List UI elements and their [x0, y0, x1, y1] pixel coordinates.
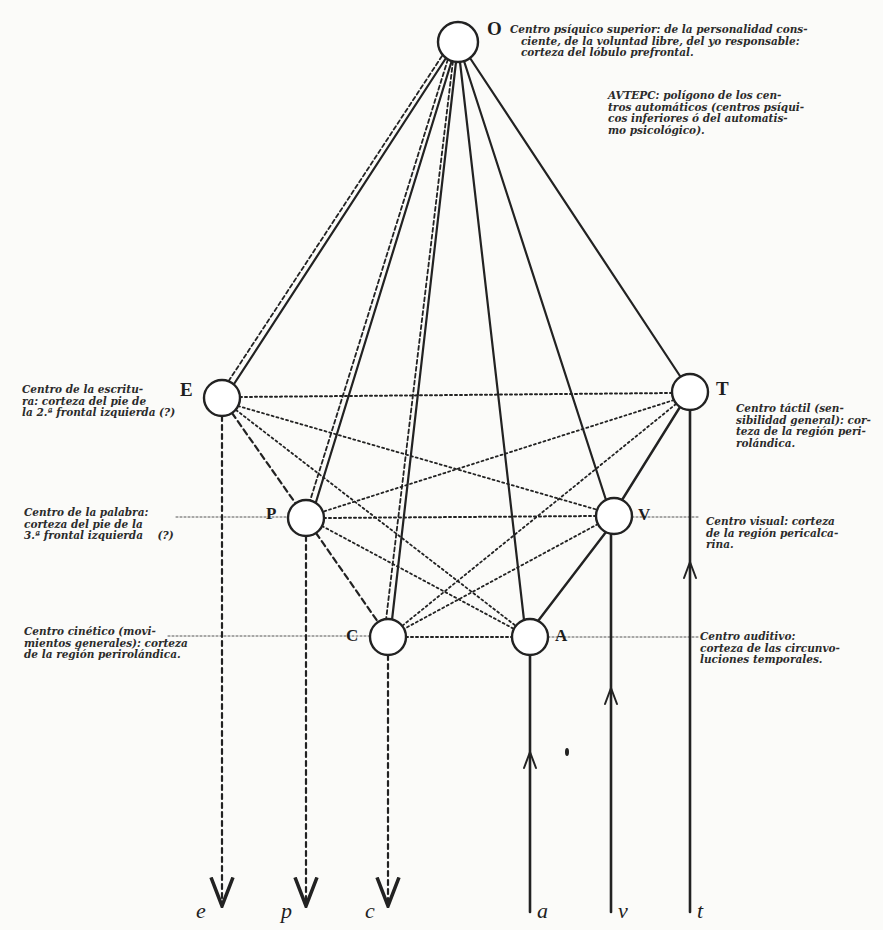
label-T-tactile-center: Centro táctil (sen- sibilidad general): …	[736, 403, 871, 449]
io-letter-v: v	[618, 898, 628, 924]
node-E	[204, 380, 240, 416]
label-A-auditory-center: Centro auditivo: corteza de las circunvo…	[700, 631, 840, 666]
io-letter-c: c	[365, 898, 375, 924]
label-E-writing-center: Centro de la escritu- ra: corteza del pi…	[22, 384, 175, 419]
node-letter-T: T	[716, 378, 729, 400]
node-letter-A: A	[555, 626, 567, 646]
node-T	[672, 374, 708, 410]
ink-spot	[565, 748, 569, 756]
io-letter-p: p	[281, 898, 292, 924]
label-P-speech-center: Centro de la palabra: corteza del pie de…	[24, 507, 174, 542]
label-polygon-description: AVTEPC: polígono de los cen- tros automá…	[608, 90, 804, 136]
node-letter-E: E	[180, 379, 193, 401]
label-leader-lines	[168, 517, 700, 637]
label-C-kinetic-center: Centro cinético (movi- mientos generales…	[24, 626, 188, 661]
node-O	[438, 22, 478, 62]
io-letter-e: e	[196, 898, 206, 924]
io-letter-a: a	[537, 898, 548, 924]
node-P	[288, 500, 324, 536]
node-letter-O: O	[487, 18, 502, 40]
output-dashed-lines	[222, 416, 388, 906]
automatism-polygon-diagram	[0, 0, 883, 930]
node-A	[512, 619, 548, 655]
input-solid-lines	[530, 410, 690, 912]
node-letter-C: C	[346, 626, 358, 646]
label-O-superior-center: Centro psíquico superior: de la personal…	[510, 24, 808, 59]
node-letter-P: P	[266, 504, 276, 524]
label-V-visual-center: Centro visual: corteza de la región peri…	[706, 516, 838, 551]
io-letter-t: t	[697, 898, 703, 924]
node-V	[596, 498, 632, 534]
node-letter-V: V	[638, 505, 650, 525]
node-C	[370, 619, 406, 655]
